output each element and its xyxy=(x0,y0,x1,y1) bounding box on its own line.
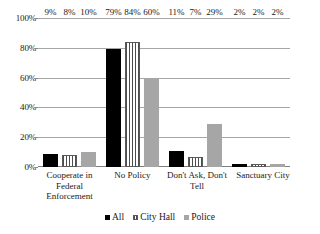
legend-label: All xyxy=(112,212,124,222)
y-tick-label: 40% xyxy=(0,103,36,112)
x-category-label: No Policy xyxy=(101,170,164,181)
y-tick-label: 100% xyxy=(0,14,36,23)
x-category-label: Don't Ask, Don't Tell xyxy=(160,170,234,191)
bar-rect xyxy=(62,155,77,167)
bar-value-label: 2% xyxy=(234,8,246,17)
legend-swatch-icon xyxy=(133,215,138,220)
bar-rect xyxy=(125,42,140,167)
x-category-label: Cooperate in Federal Enforcement xyxy=(38,170,101,202)
bar-all: 11% xyxy=(169,18,184,167)
bar-rect xyxy=(144,78,159,167)
bar-police: 60% xyxy=(144,18,159,167)
legend-label: Police xyxy=(191,212,215,222)
bar-city-hall: 2% xyxy=(251,18,266,167)
bar-rect xyxy=(270,164,285,167)
y-tick-label: 80% xyxy=(0,44,36,53)
x-category-line: Sanctuary City xyxy=(229,170,297,181)
bar-city-hall: 7% xyxy=(188,18,203,167)
bar-group: 79% 84% 60% xyxy=(101,18,164,167)
y-tick-label: 60% xyxy=(0,74,36,83)
x-category-label: Sanctuary City xyxy=(229,170,297,181)
bar-rect xyxy=(106,49,121,167)
chart-legend: All City Hall Police xyxy=(0,212,320,222)
x-category-line: Enforcement xyxy=(38,191,101,202)
bar-rect xyxy=(251,164,266,167)
bar-value-label: 7% xyxy=(190,8,202,17)
bar-police: 29% xyxy=(207,18,222,167)
x-category-line: Federal xyxy=(38,181,101,192)
bar-group: 11% 7% 29% xyxy=(164,18,227,167)
bar-value-label: 10% xyxy=(80,8,97,17)
bar-value-label: 79% xyxy=(105,8,122,17)
bar-city-hall: 8% xyxy=(62,18,77,167)
bar-rect xyxy=(81,152,96,167)
bar-all: 79% xyxy=(106,18,121,167)
x-category-line: Tell xyxy=(160,181,234,192)
bar-police: 2% xyxy=(270,18,285,167)
bar-rect xyxy=(188,157,203,167)
bar-city-hall: 84% xyxy=(125,18,140,167)
bar-value-label: 2% xyxy=(253,8,265,17)
plot-area: 9% 8% 10% 79% xyxy=(38,18,290,167)
bar-value-label: 11% xyxy=(168,8,184,17)
bar-all: 2% xyxy=(232,18,247,167)
bar-value-label: 84% xyxy=(124,8,141,17)
x-category-line: No Policy xyxy=(101,170,164,181)
bar-rect xyxy=(169,151,184,167)
bar-group: 9% 8% 10% xyxy=(38,18,101,167)
bar-all: 9% xyxy=(43,18,58,167)
legend-item-police[interactable]: Police xyxy=(184,212,215,222)
y-tick-label: 0% xyxy=(0,163,36,172)
y-tick-label: 20% xyxy=(0,133,36,142)
bar-rect xyxy=(43,154,58,167)
bar-value-label: 60% xyxy=(143,8,160,17)
bar-chart: 100% 80% 60% 40% 20% 0% 9% 8% xyxy=(0,0,320,234)
bar-value-label: 8% xyxy=(64,8,76,17)
legend-label: City Hall xyxy=(140,212,175,222)
bar-value-label: 2% xyxy=(272,8,284,17)
bar-rect xyxy=(232,164,247,167)
legend-item-all[interactable]: All xyxy=(105,212,124,222)
x-category-line: Cooperate in xyxy=(38,170,101,181)
bar-value-label: 29% xyxy=(206,8,223,17)
bar-value-label: 9% xyxy=(45,8,57,17)
legend-item-city-hall[interactable]: City Hall xyxy=(133,212,175,222)
legend-swatch-icon xyxy=(105,215,110,220)
bar-group: 2% 2% 2% xyxy=(227,18,290,167)
bar-rect xyxy=(207,124,222,167)
x-category-line: Don't Ask, Don't xyxy=(160,170,234,181)
legend-swatch-icon xyxy=(184,215,189,220)
y-tick-mark xyxy=(35,167,38,168)
bar-police: 10% xyxy=(81,18,96,167)
